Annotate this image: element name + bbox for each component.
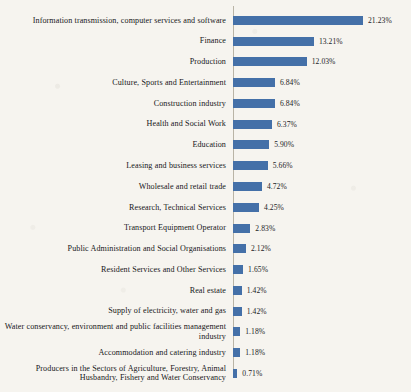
- bar-row: Producers in the Sectors of Agriculture,…: [0, 363, 411, 384]
- bar-row: Public Administration and Social Organis…: [0, 238, 411, 259]
- bar-plot-area: 5.90%: [233, 135, 411, 156]
- bar-value-label: 6.84%: [280, 99, 300, 108]
- bar-value-label: 5.66%: [273, 161, 293, 170]
- bar-row: Supply of electricity, water and gas1.42…: [0, 301, 411, 322]
- bar-plot-area: 4.72%: [233, 176, 411, 197]
- bar-plot-area: 5.66%: [233, 155, 411, 176]
- category-label: Culture, Sports and Entertainment: [0, 78, 233, 88]
- bar-value-label: 2.12%: [251, 244, 271, 253]
- bar-row: Education5.90%: [0, 135, 411, 156]
- bar-row: Information transmission, computer servi…: [0, 10, 411, 31]
- bar: [233, 182, 262, 191]
- bar-row: Health and Social Work6.37%: [0, 114, 411, 135]
- bar-plot-area: 6.37%: [233, 114, 411, 135]
- bar: [233, 203, 259, 212]
- bar-row: Transport Equipment Operator2.83%: [0, 218, 411, 239]
- bar-row: Production12.03%: [0, 52, 411, 73]
- bar-row: Water conservancy, environment and publi…: [0, 321, 411, 342]
- category-label: Wholesale and retail trade: [0, 182, 233, 192]
- bar: [233, 348, 240, 357]
- bar-plot-area: 1.18%: [233, 321, 411, 342]
- bar: [233, 244, 246, 253]
- category-label: Transport Equipment Operator: [0, 223, 233, 233]
- bar-plot-area: 4.25%: [233, 197, 411, 218]
- bar-value-label: 1.65%: [248, 265, 268, 274]
- bar-row: Wholesale and retail trade4.72%: [0, 176, 411, 197]
- bar-value-label: 2.83%: [255, 224, 275, 233]
- bar-value-label: 21.23%: [368, 16, 392, 25]
- bar-plot-area: 1.42%: [233, 301, 411, 322]
- bar-value-label: 5.90%: [274, 140, 294, 149]
- bar-row: Finance13.21%: [0, 31, 411, 52]
- bar-value-label: 1.42%: [247, 307, 267, 316]
- bar-value-label: 13.21%: [319, 37, 343, 46]
- bar-value-label: 1.18%: [245, 348, 265, 357]
- bar: [233, 78, 275, 87]
- bar: [233, 161, 268, 170]
- bar: [233, 16, 363, 25]
- category-label: Health and Social Work: [0, 119, 233, 129]
- bar: [233, 99, 275, 108]
- bar-plot-area: 12.03%: [233, 52, 411, 73]
- category-label: Accommodation and catering industry: [0, 348, 233, 358]
- bar-value-label: 6.37%: [277, 120, 297, 129]
- bar-value-label: 4.25%: [264, 203, 284, 212]
- category-label: Public Administration and Social Organis…: [0, 244, 233, 254]
- bar-plot-area: 2.83%: [233, 218, 411, 239]
- bar-row: Culture, Sports and Entertainment6.84%: [0, 72, 411, 93]
- category-label: Water conservancy, environment and publi…: [0, 322, 233, 341]
- category-label: Resident Services and Other Services: [0, 265, 233, 275]
- category-label: Information transmission, computer servi…: [0, 16, 233, 26]
- bar-plot-area: 6.84%: [233, 72, 411, 93]
- bar-value-label: 4.72%: [267, 182, 287, 191]
- bar-plot-area: 1.65%: [233, 259, 411, 280]
- bar-value-label: 0.71%: [242, 369, 262, 378]
- bar-value-label: 12.03%: [312, 57, 336, 66]
- category-label: Supply of electricity, water and gas: [0, 306, 233, 316]
- bar-rows-container: Information transmission, computer servi…: [0, 10, 411, 384]
- horizontal-bar-chart: Information transmission, computer servi…: [0, 0, 411, 392]
- category-label: Finance: [0, 36, 233, 46]
- bar-plot-area: 13.21%: [233, 31, 411, 52]
- bar: [233, 224, 250, 233]
- bar-row: Resident Services and Other Services1.65…: [0, 259, 411, 280]
- bar-row: Construction industry6.84%: [0, 93, 411, 114]
- bar-plot-area: 2.12%: [233, 238, 411, 259]
- bar-value-label: 1.42%: [247, 286, 267, 295]
- bar-value-label: 1.18%: [245, 327, 265, 336]
- bar: [233, 140, 269, 149]
- category-label: Research, Technical Services: [0, 203, 233, 213]
- bar-value-label: 6.84%: [280, 78, 300, 87]
- bar: [233, 57, 307, 66]
- bar: [233, 120, 272, 129]
- bar-plot-area: 1.42%: [233, 280, 411, 301]
- bar-row: Leasing and business services5.66%: [0, 155, 411, 176]
- bar: [233, 286, 242, 295]
- bar-row: Real estate1.42%: [0, 280, 411, 301]
- bar: [233, 307, 242, 316]
- category-label: Producers in the Sectors of Agriculture,…: [0, 364, 233, 383]
- category-label: Education: [0, 140, 233, 150]
- bar-row: Research, Technical Services4.25%: [0, 197, 411, 218]
- bar-plot-area: 6.84%: [233, 93, 411, 114]
- bar-plot-area: 21.23%: [233, 10, 411, 31]
- category-label: Real estate: [0, 286, 233, 296]
- bar-row: Accommodation and catering industry1.18%: [0, 342, 411, 363]
- bar: [233, 327, 240, 336]
- bar: [233, 37, 314, 46]
- category-label: Production: [0, 57, 233, 67]
- bar: [233, 265, 243, 274]
- bar: [233, 369, 237, 378]
- bar-plot-area: 1.18%: [233, 342, 411, 363]
- bar-plot-area: 0.71%: [233, 363, 411, 384]
- category-label: Leasing and business services: [0, 161, 233, 171]
- category-label: Construction industry: [0, 99, 233, 109]
